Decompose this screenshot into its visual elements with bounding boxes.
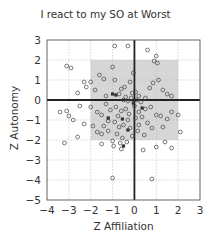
- y-tick-labels: −5−4−3−2−10123: [26, 34, 42, 206]
- svg-text:1: 1: [34, 74, 41, 86]
- svg-text:−5: −5: [26, 194, 41, 206]
- svg-text:−1: −1: [26, 114, 41, 126]
- svg-text:1: 1: [153, 204, 160, 216]
- svg-text:−3: −3: [61, 204, 76, 216]
- svg-text:3: 3: [197, 204, 204, 216]
- svg-text:−1: −1: [105, 204, 120, 216]
- svg-text:−3: −3: [26, 154, 41, 166]
- x-tick-labels: −4−3−2−10123: [39, 204, 203, 216]
- scatter-plot: −4−3−2−10123 −5−4−3−2−10123: [0, 0, 211, 242]
- svg-text:2: 2: [175, 204, 182, 216]
- svg-text:−2: −2: [26, 134, 41, 146]
- svg-text:2: 2: [34, 54, 41, 66]
- svg-text:−4: −4: [39, 204, 55, 216]
- svg-text:−4: −4: [26, 174, 42, 186]
- svg-text:3: 3: [34, 34, 41, 46]
- svg-text:−2: −2: [83, 204, 98, 216]
- svg-text:0: 0: [131, 204, 138, 216]
- svg-text:0: 0: [34, 94, 41, 106]
